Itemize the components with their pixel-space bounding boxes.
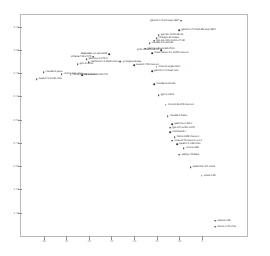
data-point-label: llama-2-7b-chat [217, 225, 236, 228]
data-point [178, 29, 180, 31]
data-point [77, 64, 79, 66]
data-point-label: vicuna-33b [186, 147, 199, 150]
data-point-label: gemini-1.5-flash-8b-exp-0827 [181, 29, 216, 32]
data-point [176, 143, 178, 145]
data-point [154, 83, 156, 85]
x-axis-tick-label: -40 [42, 240, 46, 243]
y-axis-tick-label: -0.35 [13, 95, 19, 98]
y-axis-tick-label: -0.75 [13, 141, 19, 144]
y-axis-tick-label: -0.15 [13, 72, 19, 75]
data-point [108, 53, 110, 55]
data-point [151, 71, 153, 73]
data-point [201, 175, 203, 177]
data-point-label: glm-4-0520 [80, 63, 94, 66]
data-point-label: koala-13b [204, 174, 216, 177]
data-point [215, 220, 217, 222]
data-point [86, 58, 88, 60]
data-point-label: claude-3-sonnet [156, 83, 175, 86]
data-point [181, 20, 183, 22]
data-point [120, 61, 122, 63]
data-point [169, 127, 171, 129]
data-point [36, 78, 38, 80]
data-point-label: nemotron-4-340b-instruct [91, 61, 121, 64]
x-axis-tick-label: -10 [177, 240, 181, 243]
data-point-label: claude-3-opus [46, 71, 63, 74]
y-axis-tick-label: 0.05 [14, 48, 19, 51]
plot-axes-area: 0.250.05-0.15-0.35-0.55-0.75-0.95-1.15-1… [20, 14, 248, 237]
data-point-label: qwen1.5-110b-chat [39, 78, 62, 81]
data-point [172, 140, 174, 142]
data-point-label: claude-3-5-sonnet [152, 42, 173, 45]
data-point [165, 104, 167, 106]
x-axis-tick-label: -30 [87, 240, 91, 243]
x-axis-tick-label: -15 [155, 240, 159, 243]
data-point-label: reka-core-20240722 [84, 74, 108, 77]
x-axis-tick-label: -35 [64, 240, 68, 243]
data-point-label: mistral-large-2407 [159, 66, 181, 69]
x-axis-tick-label: -5 [201, 240, 203, 243]
data-point-label: meta-llama-3.1-405b-instruct [154, 52, 189, 55]
data-point [70, 74, 72, 76]
data-point [169, 132, 171, 134]
data-point-label: claude-3-haiku [170, 115, 187, 118]
data-point-label: gpt-3.5-turbo-0125 [172, 127, 195, 130]
x-axis-tick-label: -20 [132, 240, 136, 243]
data-point-label: mixtral-8x22b-instruct [168, 103, 194, 106]
y-axis-tick-label: 0.25 [14, 25, 19, 28]
scatter-plot-figure: 0.250.05-0.15-0.35-0.55-0.75-0.95-1.15-1… [0, 0, 270, 256]
y-axis-tick-label: -1.15 [13, 188, 19, 191]
data-point [61, 74, 63, 76]
data-point [133, 64, 135, 66]
data-point-label: gemini-1.5-pro-exp-0827 [150, 20, 179, 23]
data-point-label: alpaca-13b [217, 220, 230, 223]
data-point [190, 167, 192, 169]
y-axis-tick-label: -0.95 [13, 165, 19, 168]
data-point [215, 226, 217, 228]
data-point [158, 94, 160, 96]
data-point [149, 43, 151, 45]
data-point [43, 71, 45, 73]
data-point [151, 53, 153, 55]
x-axis-tick-label: -25 [109, 240, 113, 243]
data-point [178, 154, 180, 156]
y-axis-tick-label: -0.55 [13, 118, 19, 121]
data-point-label: zephyr-7b-beta [181, 153, 199, 156]
data-point-label: command-r [172, 131, 186, 134]
y-axis-tick-label: -1.35 [13, 211, 19, 214]
data-point-label: gpt-4-0613 [161, 94, 174, 97]
data-point [81, 75, 83, 77]
data-point [183, 147, 185, 149]
data-point [156, 66, 158, 68]
data-point-label: openchat-3.5-0106 [193, 166, 216, 169]
data-point [167, 115, 169, 117]
data-point-label: gemini-1.5-flash-001 [154, 70, 178, 73]
